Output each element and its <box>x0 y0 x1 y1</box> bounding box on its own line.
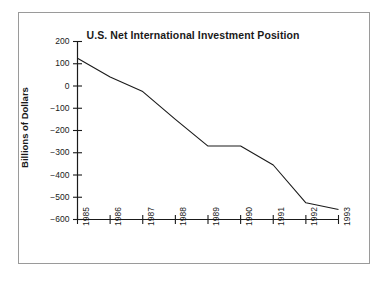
plot-area <box>0 0 386 281</box>
data-line <box>78 58 339 209</box>
chart-figure: U.S. Net International Investment Positi… <box>0 0 386 281</box>
data-series <box>78 58 339 209</box>
axes <box>73 42 339 225</box>
